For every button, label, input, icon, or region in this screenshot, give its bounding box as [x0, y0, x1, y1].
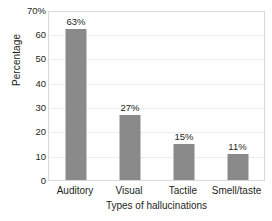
x-tick-label-auditory: Auditory — [48, 184, 102, 197]
bar-value-label: 27% — [120, 103, 139, 113]
bar-value-label: 11% — [228, 142, 246, 152]
bar-group-smell-taste: 11% — [211, 12, 264, 180]
plot-area: 63% 27% 15% 11% — [48, 11, 265, 181]
y-axis-tick-labels: 70% 60 50 40 30 20 10 0 — [16, 6, 46, 188]
y-tick-label: 30 — [16, 103, 46, 113]
x-axis-title: Types of hallucinations — [48, 200, 265, 212]
y-tick-label: 70% — [16, 6, 46, 16]
x-axis-tick-labels: Auditory Visual Tactile Smell/taste — [48, 184, 265, 198]
bar-group-tactile: 15% — [157, 12, 211, 180]
x-tick-label-smell-taste: Smell/taste — [210, 184, 263, 197]
bar-chart: Percentage 70% 60 50 40 30 20 10 0 63% 2… — [0, 0, 272, 221]
y-tick-label: 0 — [16, 176, 46, 186]
y-tick-label: 60 — [16, 30, 46, 40]
bar-visual[interactable] — [120, 115, 141, 180]
bar-smell-taste[interactable] — [227, 154, 248, 180]
bar-tactile[interactable] — [174, 144, 195, 180]
y-tick-label: 50 — [16, 54, 46, 64]
y-tick-label: 20 — [16, 127, 46, 137]
y-tick-label: 40 — [16, 79, 46, 89]
bar-group-visual: 27% — [103, 12, 157, 180]
y-tick-label: 10 — [16, 152, 46, 162]
bar-auditory[interactable] — [66, 29, 87, 180]
x-tick-label-visual: Visual — [102, 184, 156, 197]
bar-value-label: 15% — [174, 132, 193, 142]
bar-group-auditory: 63% — [49, 12, 103, 180]
x-tick-label-tactile: Tactile — [156, 184, 210, 197]
bars-layer: 63% 27% 15% 11% — [49, 12, 264, 180]
bar-value-label: 63% — [66, 17, 85, 27]
